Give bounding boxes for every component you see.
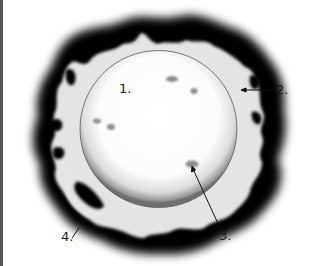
sun-diagram: [0, 0, 316, 266]
label-1-photosphere: 1.: [119, 82, 131, 95]
label-4-corona: 4.: [61, 230, 73, 243]
photosphere-disc: [80, 51, 237, 208]
label-2-chromosphere: 2.: [276, 83, 288, 96]
label-3-sunspot: 3.: [219, 229, 231, 242]
